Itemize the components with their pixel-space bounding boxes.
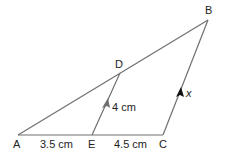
- parallel-arrow-icon-ed: [102, 98, 110, 108]
- label-e: E: [88, 138, 95, 150]
- label-d: D: [115, 58, 123, 70]
- parallel-arrow-icon-cb: [176, 87, 184, 97]
- measure-ec: 4.5 cm: [114, 138, 147, 150]
- side-ab-line: [18, 20, 208, 135]
- label-a: A: [13, 138, 21, 150]
- measure-ae: 3.5 cm: [40, 138, 73, 150]
- measure-cb: x: [185, 87, 192, 99]
- side-cb-line: [163, 20, 208, 135]
- triangle-diagram: A E C B D 3.5 cm 4.5 cm 4 cm x: [0, 0, 226, 159]
- measure-ed: 4 cm: [112, 101, 136, 113]
- label-b: B: [205, 4, 212, 16]
- label-c: C: [159, 138, 167, 150]
